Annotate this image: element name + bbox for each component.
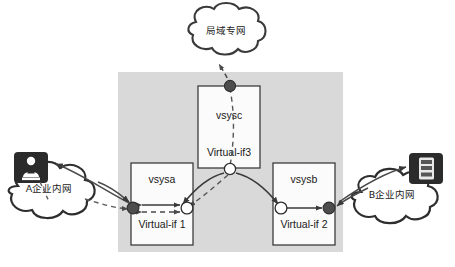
cloud-top: 局域专网 bbox=[188, 3, 265, 55]
node-vsysc-top[interactable] bbox=[224, 80, 235, 91]
vsysc-name: vsysc bbox=[216, 109, 242, 121]
node-vsysc-bottom[interactable] bbox=[224, 163, 235, 174]
vsysc-interface-label: Virtual-if3 bbox=[207, 146, 251, 158]
node-vsysa-right[interactable] bbox=[181, 202, 193, 214]
vsysb-interface-label: Virtual-if 2 bbox=[280, 218, 327, 230]
cloud-top-label: 局域专网 bbox=[206, 25, 246, 36]
vsysa-interface-label: Virtual-if 1 bbox=[138, 218, 185, 230]
cloud-right-label: B企业内网 bbox=[369, 189, 416, 200]
vsysa-name: vsysa bbox=[149, 173, 176, 185]
server-rack-icon bbox=[409, 153, 443, 184]
node-vsysb-right[interactable] bbox=[323, 202, 335, 214]
node-vsysa-left[interactable] bbox=[127, 202, 139, 214]
node-vsysb-left[interactable] bbox=[275, 202, 287, 214]
vsysb-name: vsysb bbox=[291, 173, 318, 185]
vsysc-box: vsysc Virtual-if3 bbox=[198, 86, 260, 168]
user-workstation-icon bbox=[14, 152, 48, 183]
network-diagram: 局域专网 A企业内网 B企业内网 bbox=[0, 0, 455, 267]
cloud-left-label: A企业内网 bbox=[26, 183, 73, 194]
diagram-canvas: 局域专网 A企业内网 B企业内网 bbox=[0, 0, 455, 267]
